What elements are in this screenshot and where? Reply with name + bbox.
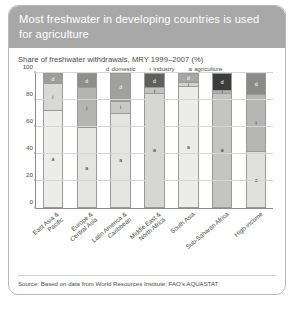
y-tick-mark (34, 72, 37, 73)
bar-slot: dia (104, 73, 138, 208)
y-tick-label: 60 (26, 117, 33, 124)
figure-body: Share of freshwater withdrawals, MRY 199… (9, 48, 285, 295)
stacked-bar[interactable]: dia (144, 73, 164, 208)
y-tick-mark (34, 153, 37, 154)
bar-segment-agriculture[interactable]: a (78, 127, 96, 207)
x-axis-label: High-income (233, 211, 264, 239)
gridline (36, 153, 273, 154)
stacked-bar[interactable]: dia (77, 73, 97, 208)
bar-group: diadiadiadiadiadiadia (36, 73, 273, 208)
bar-segment-agriculture[interactable]: a (213, 93, 231, 207)
bar-slot: dia (239, 73, 273, 208)
stacked-bar[interactable]: dia (212, 73, 232, 208)
gridline (36, 180, 273, 181)
bar-segment-domestic[interactable]: d (179, 74, 197, 82)
bar-segment-industry[interactable]: i (111, 101, 129, 113)
bar-segment-industry[interactable]: i (44, 83, 62, 110)
bar-segment-domestic[interactable]: d (145, 74, 163, 87)
bar-segment-industry[interactable]: i (247, 94, 265, 151)
chart-subtitle: Share of freshwater withdrawals, MRY 199… (18, 55, 277, 64)
bar-slot: dia (138, 73, 172, 208)
x-axis-label: South Asia (169, 211, 196, 235)
bar-segment-agriculture[interactable]: a (44, 110, 62, 207)
y-tick-label: 20 (26, 171, 33, 178)
bar-segment-domestic[interactable]: d (111, 74, 129, 101)
bar-slot: dia (171, 73, 205, 208)
gridline (36, 126, 273, 127)
source-note: Source: Based on data from World Resourc… (18, 275, 276, 287)
x-axis-label: East Asia &Pacific (32, 211, 65, 242)
y-tick-label: 80 (26, 90, 33, 97)
bar-segment-domestic[interactable]: d (78, 74, 96, 87)
x-axis-labels: East Asia &PacificEurope &Central AsiaLa… (35, 209, 273, 269)
plot-wrapper: diadiadiadiadiadiadia 020406080100 East … (19, 73, 277, 269)
y-tick-mark (34, 99, 37, 100)
y-tick-mark (34, 180, 37, 181)
stacked-bar[interactable]: dia (43, 73, 63, 208)
y-tick-label: 0 (30, 198, 33, 205)
stacked-bar[interactable]: dia (246, 73, 266, 208)
plot-area: diadiadiadiadiadiadia 020406080100 (35, 73, 273, 209)
x-axis-label: Latin America &Caribbean (91, 211, 133, 249)
bar-slot: dia (205, 73, 239, 208)
x-axis-label: Middle East &North Africa (129, 211, 167, 246)
gridline (36, 99, 273, 100)
y-tick-label: 40 (26, 144, 33, 151)
gridline (36, 72, 273, 73)
bar-segment-domestic[interactable]: d (213, 74, 231, 90)
figure-card: Most freshwater in developing countries … (8, 5, 286, 295)
bar-segment-agriculture[interactable]: a (145, 93, 163, 207)
bar-segment-domestic[interactable]: d (44, 74, 62, 83)
y-tick-mark (34, 126, 37, 127)
stacked-bar[interactable]: dia (178, 73, 198, 208)
y-tick-label: 100 (23, 63, 33, 70)
page-title: Most freshwater in developing countries … (19, 12, 275, 41)
bar-slot: dia (70, 73, 104, 208)
bar-slot: dia (36, 73, 70, 208)
bar-segment-domestic[interactable]: d (247, 74, 265, 94)
stacked-bar[interactable]: dia (110, 73, 130, 208)
bar-segment-industry[interactable]: i (78, 87, 96, 127)
y-tick-mark (34, 207, 37, 208)
bar-segment-agriculture[interactable]: a (179, 86, 197, 207)
figure-header: Most freshwater in developing countries … (9, 6, 285, 48)
